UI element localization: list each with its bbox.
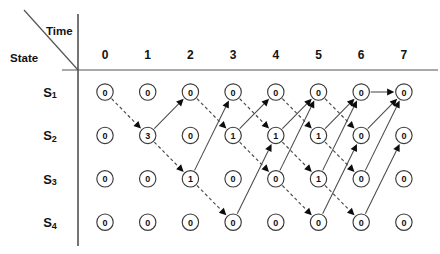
edges-group: [112, 89, 400, 216]
trellis-node: 0: [396, 84, 412, 100]
trellis-edge-solid: [282, 104, 306, 129]
state-label-base: S: [43, 128, 52, 143]
trellis-edge-dashed: [197, 99, 221, 124]
node-value: 0: [359, 131, 364, 141]
node-value: 0: [231, 174, 236, 184]
state-label-subscript: 2: [52, 134, 57, 144]
trellis-diagram-root: 00000000030111000010010000000000 0123456…: [0, 0, 440, 254]
node-value: 0: [273, 88, 278, 98]
state-label-subscript: 1: [52, 90, 57, 100]
edge-arrowhead: [219, 208, 227, 216]
state-label-base: S: [43, 215, 52, 230]
trellis-edge-solid: [368, 104, 392, 129]
node-value: 0: [359, 88, 364, 98]
node-value: 0: [231, 218, 236, 228]
edge-arrowhead: [347, 208, 355, 216]
trellis-node: 0: [140, 84, 156, 100]
node-value: 1: [231, 131, 236, 141]
trellis-edge-solid: [325, 104, 349, 129]
column-label-2: 2: [187, 48, 194, 62]
trellis-node: 0: [140, 171, 156, 187]
edge-arrowhead: [347, 164, 355, 172]
node-value: 0: [401, 174, 406, 184]
trellis-node: 0: [310, 214, 326, 230]
edge-arrowhead: [262, 121, 270, 129]
node-value: 0: [188, 218, 193, 228]
node-value: 0: [273, 174, 278, 184]
column-label-1: 1: [144, 48, 151, 62]
edge-arrowhead: [176, 164, 184, 172]
trellis-node: 1: [268, 127, 284, 143]
trellis-node: 0: [396, 214, 412, 230]
trellis-node: 0: [353, 127, 369, 143]
column-label-0: 0: [102, 48, 109, 62]
trellis-node: 0: [268, 84, 284, 100]
state-label-subscript: 3: [52, 177, 57, 187]
trellis-node: 0: [268, 214, 284, 230]
trellis-edge-dashed: [325, 99, 349, 124]
node-value: 0: [188, 131, 193, 141]
state-label-S3: S3: [43, 171, 57, 187]
edge-arrowhead: [262, 164, 270, 172]
column-label-5: 5: [315, 48, 322, 62]
edge-arrowhead: [304, 164, 312, 172]
state-label-S1: S1: [43, 85, 57, 101]
trellis-edge-dashed: [282, 186, 306, 211]
trellis-node: 0: [225, 84, 241, 100]
trellis-edge-dashed: [112, 99, 136, 124]
trellis-edge-solid: [280, 107, 311, 170]
node-value: 0: [401, 218, 406, 228]
node-value: 0: [316, 218, 321, 228]
trellis-node: 0: [97, 84, 113, 100]
trellis-edge-dashed: [240, 99, 264, 124]
trellis-node: 0: [182, 214, 198, 230]
edge-arrowhead: [219, 121, 227, 129]
node-value: 0: [188, 88, 193, 98]
column-label-6: 6: [358, 48, 365, 62]
column-label-3: 3: [230, 48, 237, 62]
trellis-node: 1: [225, 127, 241, 143]
labels-group: 01234567S1S2S3S4TimeState: [10, 25, 408, 231]
node-value: 1: [316, 174, 321, 184]
trellis-node: 0: [353, 84, 369, 100]
time-axis-label: Time: [46, 25, 73, 37]
nodes-group: 00000000030111000010010000000000: [97, 84, 412, 231]
trellis-edge-dashed: [154, 142, 178, 167]
trellis-node: 0: [97, 171, 113, 187]
trellis-node: 0: [97, 214, 113, 230]
trellis-node: 1: [182, 171, 198, 187]
trellis-node: 0: [396, 171, 412, 187]
state-label-base: S: [43, 85, 52, 100]
trellis-node: 0: [396, 127, 412, 143]
node-value: 0: [145, 174, 150, 184]
trellis-edge-dashed: [282, 99, 306, 124]
node-value: 0: [102, 88, 107, 98]
trellis-edge-dashed: [240, 142, 264, 167]
node-value: 0: [273, 218, 278, 228]
state-axis-label: State: [10, 52, 38, 64]
edge-arrowhead: [304, 208, 312, 216]
trellis-node: 0: [225, 171, 241, 187]
trellis-edge-dashed: [325, 186, 349, 211]
trellis-node: 0: [310, 84, 326, 100]
trellis-node: 1: [310, 171, 326, 187]
edge-arrowhead: [387, 89, 394, 96]
node-value: 0: [359, 174, 364, 184]
node-value: 0: [145, 88, 150, 98]
trellis-node: 3: [140, 127, 156, 143]
trellis-node: 1: [310, 127, 326, 143]
trellis-node: 0: [353, 214, 369, 230]
trellis-edge-solid: [237, 150, 268, 213]
trellis-node: 0: [182, 127, 198, 143]
trellis-node: 0: [353, 171, 369, 187]
trellis-edge-dashed: [325, 142, 349, 167]
node-value: 0: [102, 218, 107, 228]
node-value: 1: [188, 174, 193, 184]
edge-arrowhead: [304, 121, 312, 129]
node-value: 0: [316, 88, 321, 98]
trellis-edge-dashed: [197, 186, 221, 211]
edge-arrowhead: [347, 121, 355, 129]
edge-arrowhead: [133, 121, 141, 129]
trellis-node: 0: [268, 171, 284, 187]
trellis-svg: 00000000030111000010010000000000 0123456…: [0, 0, 440, 254]
